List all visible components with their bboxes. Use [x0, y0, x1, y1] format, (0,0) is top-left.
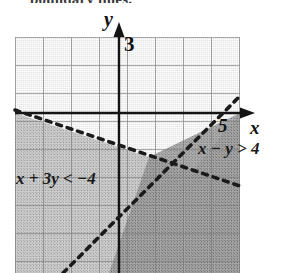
inequality-label-x-plus-3y: x + 3y < −4 — [16, 169, 96, 189]
inequality-label-x-minus-y: x − y > 4 — [198, 139, 260, 159]
y-axis-tick-label-3: 3 — [124, 32, 135, 57]
x-axis-label: x — [250, 117, 260, 139]
y-axis-label: y — [104, 8, 113, 31]
axes-and-boundary-lines — [0, 0, 287, 273]
x-axis-tick-label-5: 5 — [218, 115, 228, 137]
